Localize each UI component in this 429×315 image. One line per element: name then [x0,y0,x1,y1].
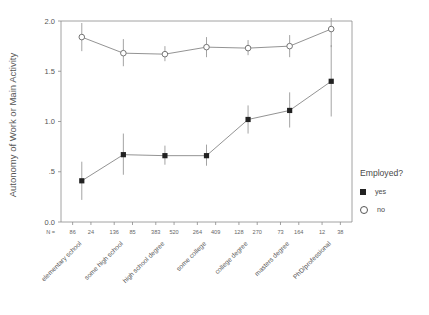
n-value: 85 [129,229,135,235]
legend-item-yes[interactable]: yes [360,187,429,196]
n-value: 383 [151,229,160,235]
series-yes [79,45,334,200]
legend-item-no-label: no [377,205,385,214]
x-category-label: some college [175,240,208,273]
data-point-yes [79,178,84,183]
n-row: N =862413685383520264409128270731641238 [46,229,343,235]
n-row-label: N = [46,229,55,235]
n-value: 136 [110,229,119,235]
x-category-label: elementary school [40,239,84,283]
x-category-label: college degree [213,240,249,276]
data-point-yes [329,79,334,84]
filled-square-icon [360,189,366,195]
n-value: 38 [337,229,343,235]
n-value: 264 [193,229,202,235]
x-axis-ticks [73,222,341,225]
data-point-no [204,44,210,50]
data-point-no [162,51,168,57]
data-point-no [328,26,334,32]
data-point-yes [287,108,292,113]
data-point-no [121,50,127,56]
data-point-no [245,45,251,51]
x-category-label: high school degree [121,240,166,285]
chart-figure: Autonomy of Work or Main Activity 0.0.51… [0,0,429,315]
legend-item-yes-label: yes [375,187,386,196]
x-category-label: some high school [83,239,125,281]
y-axis-title: Autonomy of Work or Main Activity [7,53,18,198]
y-tick-label: 1.0 [45,117,55,126]
y-tick-label: .5 [49,167,55,176]
legend: Employed? yes no [360,168,429,214]
data-point-yes [245,117,250,122]
x-category-label: PhD/professional [291,239,333,281]
y-tick-label: 0.0 [45,218,55,227]
data-point-yes [204,153,209,158]
n-value: 520 [169,229,178,235]
n-value: 86 [70,229,76,235]
data-point-no [287,43,293,49]
n-value: 409 [211,229,220,235]
series-no [79,18,334,66]
legend-item-no[interactable]: no [360,205,429,214]
n-value: 128 [234,229,243,235]
n-value: 73 [277,229,283,235]
y-tick-label: 1.5 [45,67,55,76]
x-axis-category-labels: elementary schoolsome high schoolhigh sc… [40,239,333,284]
y-tick-label: 2.0 [45,17,55,26]
n-value: 24 [88,229,94,235]
legend-title: Employed? [360,168,429,178]
open-circle-icon [360,206,368,214]
data-point-yes [121,152,126,157]
n-value: 270 [253,229,262,235]
chart-canvas: Autonomy of Work or Main Activity 0.0.51… [0,0,429,315]
y-axis-ticks: 0.0.51.01.52.0 [45,17,61,227]
data-point-no [79,34,85,40]
data-point-yes [162,153,167,158]
x-category-label: masters degree [253,240,291,278]
n-value: 164 [294,229,303,235]
n-value: 12 [319,229,325,235]
